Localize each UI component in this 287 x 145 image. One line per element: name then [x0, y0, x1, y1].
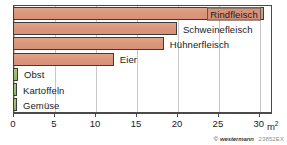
- bar-row: Kartoffeln: [13, 83, 272, 96]
- bar-row: Eier: [13, 53, 272, 66]
- copyright-credit: © westermann 23852EX: [214, 135, 284, 143]
- bar-row: Obst: [13, 68, 272, 81]
- x-tick: [259, 113, 260, 117]
- bar-chart: RindfleischSchweinefleischHühnerfleischE…: [0, 0, 287, 145]
- bar-category-label: Kartoffeln: [23, 84, 65, 95]
- x-tick: [136, 113, 137, 117]
- bar-category-label: Obst: [24, 69, 44, 80]
- bar-category-label: Rindfleisch: [207, 7, 261, 20]
- copyright-symbol: ©: [214, 136, 218, 142]
- x-axis-line: [13, 113, 272, 114]
- unit-exponent: 2: [275, 120, 279, 127]
- bar-category-label: Schweinefleisch: [183, 23, 253, 34]
- bar-meat: [13, 37, 164, 50]
- x-tick-label: 10: [90, 118, 101, 129]
- x-tick-label: 20: [172, 118, 183, 129]
- bars-layer: RindfleischSchweinefleischHühnerfleischE…: [13, 5, 272, 113]
- bar-row: Hühnerfleisch: [13, 37, 272, 50]
- figure-code: 23852EX: [259, 136, 284, 142]
- bar-category-label: Gemüse: [23, 99, 60, 110]
- x-tick-label: 25: [213, 118, 224, 129]
- bar-plant: [13, 68, 18, 81]
- bar-plant: [13, 98, 17, 111]
- bar-plant: [13, 83, 17, 96]
- bar-meat: [13, 22, 177, 35]
- x-tick-label: 15: [131, 118, 142, 129]
- x-tick-label: 30: [254, 118, 265, 129]
- x-tick: [218, 113, 219, 117]
- bar-meat: [13, 53, 114, 66]
- bar-row: Schweinefleisch: [13, 22, 272, 35]
- x-tick: [54, 113, 55, 117]
- bar-meat: Rindfleisch: [13, 7, 264, 20]
- x-axis-unit-label: m2: [267, 118, 279, 132]
- bar-row: Rindfleisch: [13, 7, 272, 20]
- x-tick-label: 0: [10, 118, 15, 129]
- x-tick-label: 5: [51, 118, 56, 129]
- bar-category-label: Hühnerfleisch: [170, 38, 229, 49]
- x-tick: [95, 113, 96, 117]
- publisher-name: westermann: [220, 136, 254, 142]
- x-tick: [13, 113, 14, 117]
- x-tick: [177, 113, 178, 117]
- bar-row: Gemüse: [13, 98, 272, 111]
- bar-category-label: Eier: [120, 54, 137, 65]
- unit-base: m: [267, 121, 275, 132]
